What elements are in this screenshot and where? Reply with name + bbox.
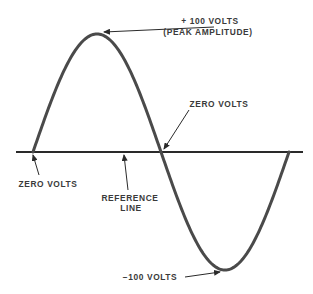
peak-value-label: + 100 VOLTS xyxy=(181,16,238,26)
peak-caption-label: (PEAK AMPLITUDE) xyxy=(163,27,252,37)
reference-label-line2: LINE xyxy=(120,203,141,213)
trough-arrow xyxy=(185,272,220,277)
zero-left-label: ZERO VOLTS xyxy=(19,179,78,189)
trough-value-label: −100 VOLTS xyxy=(123,272,178,282)
zero-left-arrow xyxy=(33,155,39,175)
sine-wave-diagram: + 100 VOLTS (PEAK AMPLITUDE) ZERO VOLTS … xyxy=(0,0,313,294)
reference-arrow xyxy=(124,155,128,190)
reference-label-line1: REFERENCE xyxy=(101,193,158,203)
zero-right-arrow xyxy=(164,110,189,149)
zero-right-label: ZERO VOLTS xyxy=(190,99,249,109)
